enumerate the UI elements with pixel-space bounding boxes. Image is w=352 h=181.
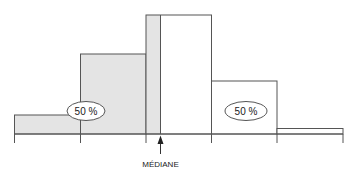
left-percent-label: 50 %	[75, 106, 98, 117]
bin-5	[277, 129, 343, 135]
median-arrow-icon	[158, 136, 164, 155]
x-axis-ticks	[15, 134, 344, 143]
bin-3-shaded-part	[146, 15, 161, 134]
right-percent-label: 50 %	[235, 106, 258, 117]
median-label: MÉDIANE	[142, 160, 178, 169]
left-percent-callout: 50 %	[67, 102, 105, 121]
bin-1	[15, 115, 81, 134]
histogram-chart: 50 % 50 % MÉDIANE	[0, 0, 352, 181]
bin-2	[81, 54, 147, 134]
right-percent-callout: 50 %	[225, 102, 267, 121]
